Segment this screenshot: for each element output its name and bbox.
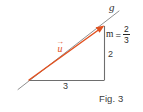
figure-caption: Fig. 3 bbox=[99, 93, 123, 104]
slope-denominator: 3 bbox=[123, 36, 130, 45]
slope-fraction: 2 3 bbox=[123, 25, 130, 44]
run-label: 3 bbox=[63, 82, 68, 91]
slope-symbol: m bbox=[106, 30, 113, 40]
slope-numerator: 2 bbox=[123, 25, 130, 34]
line-label-g: g bbox=[109, 2, 115, 13]
vector-label-u: → u bbox=[56, 40, 64, 54]
slope-label: m = 2 3 bbox=[106, 25, 130, 44]
rise-label: 2 bbox=[108, 50, 113, 59]
equals-sign: = bbox=[115, 30, 121, 40]
figure-container: g m = 2 3 → u 2 3 Fig. 3 bbox=[0, 0, 143, 112]
